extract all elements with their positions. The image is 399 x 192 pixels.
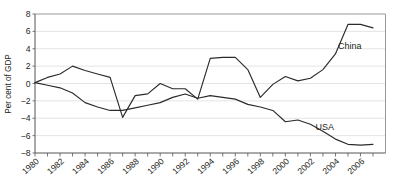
series-annotation: USA bbox=[315, 122, 334, 132]
y-tick-label: 2 bbox=[26, 61, 31, 71]
line-chart: 86420−2−4−6−8 19801982198419861988199019… bbox=[0, 0, 399, 192]
y-axis-title: Per cent of GDP bbox=[4, 54, 13, 114]
y-tick-label: 4 bbox=[26, 44, 31, 54]
series-annotation: China bbox=[338, 41, 362, 51]
y-tick-label: −6 bbox=[21, 131, 31, 141]
y-tick-label: −4 bbox=[21, 113, 31, 123]
y-tick-label: 0 bbox=[26, 79, 31, 89]
y-tick-label: 8 bbox=[26, 9, 31, 19]
y-tick-label: 6 bbox=[26, 26, 31, 36]
y-tick-label: −2 bbox=[21, 96, 31, 106]
y-tick-label: −8 bbox=[21, 148, 31, 158]
chart-container: 86420−2−4−6−8 19801982198419861988199019… bbox=[0, 0, 399, 192]
